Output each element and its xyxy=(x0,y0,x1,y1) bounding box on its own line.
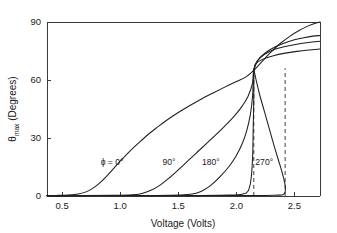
y-tick-label: 0 xyxy=(36,190,41,201)
phi-180-label: 180° xyxy=(202,157,220,167)
y-tick-label: 60 xyxy=(30,74,41,85)
chart-figure: 0.51.01.52.02.50306090 ϕ = 0°90°180°270°… xyxy=(0,0,337,233)
x-tick-label: 2.0 xyxy=(230,200,243,211)
x-axis-title: Voltage (Volts) xyxy=(151,218,215,229)
x-tick-label: 2.5 xyxy=(288,200,301,211)
data-curve-3-return-branch xyxy=(47,70,285,195)
x-tick-label: 0.5 xyxy=(55,200,68,211)
chart-svg: 0.51.01.52.02.50306090 ϕ = 0°90°180°270°… xyxy=(0,0,337,233)
axis-tick-labels: 0.51.01.52.02.50306090 xyxy=(30,16,301,211)
y-axis-title: θmax (Degrees) xyxy=(7,76,20,141)
x-tick-label: 1.0 xyxy=(114,200,127,211)
y-tick-label: 30 xyxy=(30,132,41,143)
phi-90-label: 90° xyxy=(162,157,175,167)
x-tick-label: 1.5 xyxy=(172,200,185,211)
y-axis-title-units: (Degrees) xyxy=(7,76,18,123)
y-axis-title-subscript: max xyxy=(13,123,20,136)
data-curve-1 xyxy=(47,36,320,196)
data-curve-3 xyxy=(47,49,320,196)
y-tick-label: 90 xyxy=(30,16,41,27)
data-curves xyxy=(47,22,320,196)
phi-0-label: ϕ = 0° xyxy=(101,157,124,167)
phi-270-label: 270° xyxy=(255,157,273,167)
svg-text:θmax (Degrees): θmax (Degrees) xyxy=(7,76,20,141)
threshold-lines xyxy=(254,68,285,196)
data-curve-2 xyxy=(47,41,320,195)
